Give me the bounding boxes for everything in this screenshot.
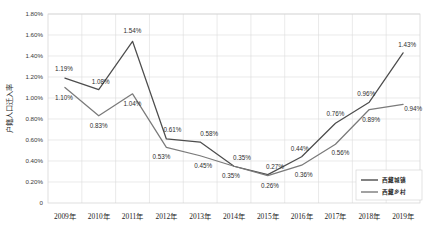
x-axis-category-label: 2018年 (358, 212, 381, 221)
x-axis-category-label: 2019年 (392, 212, 415, 221)
data-point-label: 0.36% (295, 171, 313, 178)
chart-legend: 西藏城镇西藏乡村 (356, 170, 422, 200)
data-point-label: 1.08% (92, 78, 110, 85)
x-axis-category-label: 2015年 (257, 212, 280, 221)
x-axis-category-label: 2011年 (122, 212, 145, 221)
data-point-label: 0.89% (362, 116, 380, 123)
data-point-label: 0.35% (222, 172, 240, 179)
y-axis-tick-label: 1.40% (25, 52, 43, 59)
y-axis-tick-label: 0.80% (25, 115, 43, 122)
line-chart: 1.80%1.60%1.40%1.20%1.00%0.80%0.60%0.40%… (0, 0, 427, 236)
data-point-label: 1.04% (124, 100, 142, 107)
y-axis-ticks: 1.80%1.60%1.40%1.20%1.00%0.80%0.60%0.40%… (25, 10, 43, 206)
x-axis-category-label: 2014年 (223, 212, 246, 221)
y-axis-tick-label: 0.20% (25, 178, 43, 185)
chart-container: 1.80%1.60%1.40%1.20%1.00%0.80%0.60%0.40%… (0, 0, 427, 236)
x-axis-category-label: 2016年 (291, 212, 314, 221)
x-axis-categories: 2009年2010年2011年2012年2013年2014年2015年2016年… (54, 212, 415, 221)
legend-label-1: 西藏乡村 (382, 188, 406, 196)
data-point-label: 0.53% (152, 153, 170, 160)
data-point-label: 0.56% (332, 149, 350, 156)
data-point-label: 0.35% (233, 154, 251, 161)
data-point-label: 1.43% (398, 41, 416, 48)
x-axis-category-label: 2013年 (189, 212, 212, 221)
legend-label-0: 西藏城镇 (382, 176, 406, 184)
data-point-label: 0.45% (194, 162, 212, 169)
y-axis-tick-label: 1.60% (25, 31, 43, 38)
data-point-label: 0.94% (404, 105, 422, 112)
data-point-label: 1.54% (124, 27, 142, 34)
y-axis-title: 户籍人口迁入率 (5, 84, 14, 133)
y-axis-tick-label: 0.60% (25, 136, 43, 143)
data-point-label: 0.96% (357, 90, 375, 97)
y-axis-tick-label: 0.40% (25, 157, 43, 164)
x-axis-category-label: 2017年 (325, 212, 348, 221)
y-axis-tick-label: 1.80% (25, 10, 43, 17)
y-axis-tick-label: 1.00% (25, 94, 43, 101)
data-point-label: 0.58% (200, 130, 218, 137)
data-point-label: 0.44% (291, 145, 309, 152)
data-point-label: 0.27% (266, 163, 284, 170)
y-axis-tick-label: 0 (40, 199, 44, 206)
data-point-label: 1.10% (55, 94, 73, 101)
data-point-label: 0.76% (327, 110, 345, 117)
data-point-label: 0.61% (163, 126, 181, 133)
data-point-label: 0.26% (261, 182, 279, 189)
x-axis-category-label: 2012年 (155, 212, 178, 221)
y-axis-tick-label: 1.20% (25, 73, 43, 80)
x-axis-category-label: 2009年 (54, 212, 77, 221)
x-axis-category-label: 2010年 (88, 212, 111, 221)
data-point-label: 1.19% (55, 65, 73, 72)
data-point-label: 0.83% (90, 122, 108, 129)
legend-box (356, 170, 422, 200)
